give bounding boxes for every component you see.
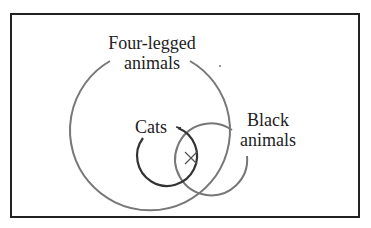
cats-leader [176,127,181,128]
x-marker-icon [185,152,197,164]
stray-dot [219,65,221,67]
black-animals-label: Black animals [232,110,304,150]
four-legged-label: Four-legged animals [92,33,212,73]
cats-label: Cats [135,117,167,137]
black-label-line2: animals [232,130,304,150]
black-label-line1: Black [232,110,304,130]
four-legged-label-line2: animals [92,53,212,73]
four-legged-label-line1: Four-legged [92,33,212,53]
